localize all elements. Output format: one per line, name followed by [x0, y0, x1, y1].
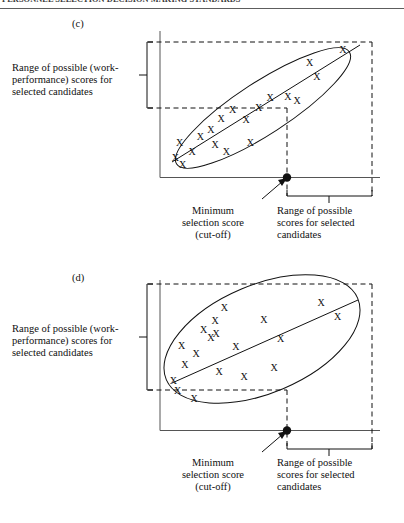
scatter-marker: X	[181, 359, 189, 370]
panel-d-markers: XXXXXXXXXXXXXXXXXXX	[170, 297, 342, 404]
scatter-marker: X	[266, 92, 274, 103]
panel-c-cutoff-arrow-shaft	[262, 181, 283, 199]
panel-d-y-range-bracket	[147, 284, 153, 390]
scatter-marker: X	[218, 113, 226, 124]
panel-d-x-range-bracket	[287, 443, 372, 449]
scatter-marker: X	[212, 328, 220, 339]
panel-c-cutoff-dot	[283, 173, 291, 181]
panel-c: (c) Range of possible (work- performance…	[0, 0, 404, 255]
scatter-marker: X	[284, 91, 292, 102]
scatter-marker: X	[221, 302, 229, 313]
panel-d-cutoff-arrow-shaft	[262, 434, 283, 452]
scatter-marker: X	[247, 137, 255, 148]
panel-c-x-range-bracket	[287, 190, 372, 196]
scatter-marker: X	[188, 146, 196, 157]
panel-c-graphic: XXXXXXXXXXXXXXXXXXX	[0, 0, 404, 255]
panel-d-graphic: XXXXXXXXXXXXXXXXXXX	[0, 255, 404, 523]
scatter-marker: X	[197, 131, 205, 142]
scatter-marker: X	[229, 104, 237, 115]
scatter-marker: X	[293, 95, 301, 106]
scatter-marker: X	[260, 314, 268, 325]
scatter-marker: X	[277, 333, 285, 344]
scatter-marker: X	[313, 71, 321, 82]
panel-d: (d) Range of possible (work- performance…	[0, 255, 404, 523]
scatter-marker: X	[339, 44, 347, 55]
panel-c-y-range-bracket	[147, 42, 153, 108]
scatter-marker: X	[178, 340, 186, 351]
scatter-marker: X	[176, 137, 184, 148]
scatter-marker: X	[240, 371, 248, 382]
scatter-marker: X	[191, 393, 199, 404]
scatter-marker: X	[174, 385, 182, 396]
scatter-marker: X	[243, 114, 251, 125]
scatter-marker: X	[317, 297, 325, 308]
scatter-marker: X	[179, 159, 187, 170]
scatter-marker: X	[211, 139, 219, 150]
scatter-marker: X	[271, 362, 279, 373]
panel-c-markers: XXXXXXXXXXXXXXXXXXX	[172, 44, 348, 170]
figure-page: PERSONNEL SELECTION DECISION MAKING STAN…	[0, 0, 404, 523]
panel-d-cutoff-dot	[283, 426, 291, 434]
scatter-marker: X	[207, 124, 215, 135]
scatter-marker: X	[223, 146, 231, 157]
scatter-marker: X	[211, 315, 219, 326]
scatter-marker: X	[334, 311, 342, 322]
scatter-marker: X	[193, 348, 201, 359]
scatter-marker: X	[255, 102, 263, 113]
panel-c-regression-line	[172, 45, 360, 162]
scatter-marker: X	[306, 57, 314, 68]
scatter-marker: X	[232, 341, 240, 352]
scatter-marker: X	[215, 366, 223, 377]
